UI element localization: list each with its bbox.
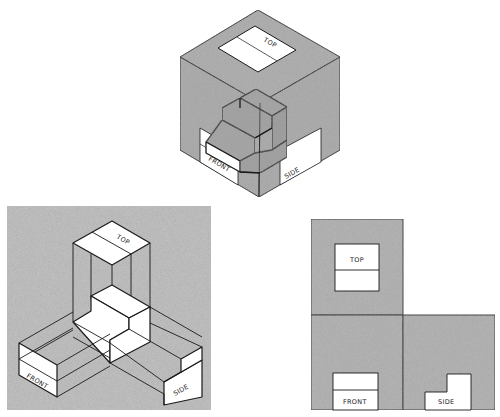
figure-canvas: TOP FRONT SIDE <box>0 0 500 417</box>
flat-label-side: SIDE <box>438 398 454 406</box>
flat-views-panel <box>311 219 495 410</box>
flat-top-window <box>335 244 379 291</box>
flat-label-top: TOP <box>349 256 364 264</box>
flat-label-front: FRONT <box>343 398 367 406</box>
unfolded-box-panel: TOP FRONT SIDE <box>7 206 211 410</box>
isometric-cube: TOP FRONT SIDE <box>180 10 340 197</box>
